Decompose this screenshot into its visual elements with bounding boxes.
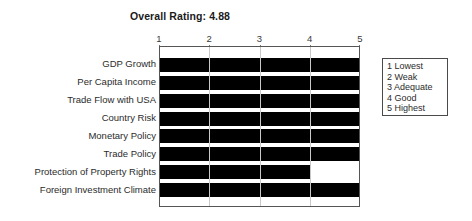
x-tick-label: 1 <box>156 33 161 44</box>
legend-entry: 3 Adequate <box>387 82 447 93</box>
gridline <box>310 47 311 206</box>
legend-entry: 4 Good <box>387 93 447 104</box>
legend-entry: 1 Lowest <box>387 61 447 72</box>
chart-title: Overall Rating: 4.88 <box>0 10 360 22</box>
legend-entry: 2 Weak <box>387 72 447 83</box>
category-label: Country Risk <box>0 112 156 123</box>
gridline <box>209 47 210 206</box>
x-tick-label: 5 <box>357 33 362 44</box>
category-label: Trade Flow with USA <box>0 94 156 105</box>
x-axis: 12345 <box>0 33 472 46</box>
x-tick-label: 4 <box>307 33 312 44</box>
category-label: Foreign Investment Climate <box>0 184 156 195</box>
legend-entry: 5 Highest <box>387 103 447 114</box>
plot-area <box>159 46 360 207</box>
category-label: Trade Policy <box>0 148 156 159</box>
x-tick-label: 2 <box>207 33 212 44</box>
category-axis-labels: GDP GrowthPer Capita IncomeTrade Flow wi… <box>0 46 156 207</box>
category-label: Protection of Property Rights <box>0 166 156 177</box>
rating-scale-legend: 1 Lowest2 Weak3 Adequate4 Good5 Highest <box>382 58 448 116</box>
category-label: GDP Growth <box>0 58 156 69</box>
gridline <box>260 47 261 206</box>
category-label: Per Capita Income <box>0 76 156 87</box>
category-label: Monetary Policy <box>0 130 156 141</box>
rating-chart: Overall Rating: 4.88 12345 GDP GrowthPer… <box>0 0 472 221</box>
bar <box>160 165 311 179</box>
x-tick-label: 3 <box>257 33 262 44</box>
